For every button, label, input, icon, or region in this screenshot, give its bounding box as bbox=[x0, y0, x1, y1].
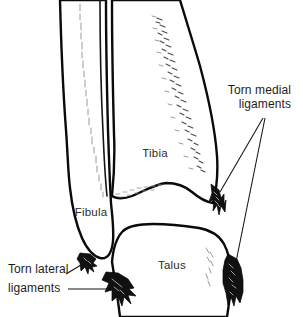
bone-label-fibula: Fibula bbox=[75, 206, 108, 218]
callout-medial-line1: Torn medial bbox=[228, 83, 291, 97]
bone-label-tibia: Tibia bbox=[142, 147, 168, 159]
anatomy-illustration: Tibia Fibula Talus Torn medial ligaments… bbox=[0, 0, 303, 317]
ankle-ligament-figure: Tibia Fibula Talus Torn medial ligaments… bbox=[0, 0, 303, 317]
bone-label-talus: Talus bbox=[158, 259, 186, 271]
callout-medial-line2: ligaments bbox=[239, 97, 291, 111]
callout-lateral-line2: ligaments bbox=[8, 281, 60, 295]
callout-lateral-line1: Torn lateral bbox=[8, 262, 69, 276]
